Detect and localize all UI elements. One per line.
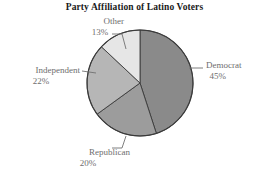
- pie-label-independent-name: Independent: [2, 65, 80, 76]
- pie-label-democrat-value: 45%: [206, 71, 241, 82]
- pie-label-republican-name: Republican: [46, 147, 130, 158]
- pie-chart-graphic: [0, 0, 269, 183]
- pie-label-independent: Independent 22%: [2, 65, 80, 86]
- pie-chart-figure: Party Affiliation of Latino Voters Democ…: [0, 0, 269, 183]
- pie-label-republican-value: 20%: [46, 158, 130, 169]
- pie-label-other-value: 13%: [76, 27, 124, 38]
- pie-label-republican: Republican 20%: [46, 147, 130, 168]
- pie-label-democrat: Democrat 45%: [206, 60, 241, 81]
- pie-label-other-name: Other: [76, 16, 124, 27]
- pie-label-other: Other 13%: [76, 16, 124, 37]
- pie-label-independent-value: 22%: [2, 76, 80, 87]
- pie-label-democrat-name: Democrat: [206, 60, 241, 71]
